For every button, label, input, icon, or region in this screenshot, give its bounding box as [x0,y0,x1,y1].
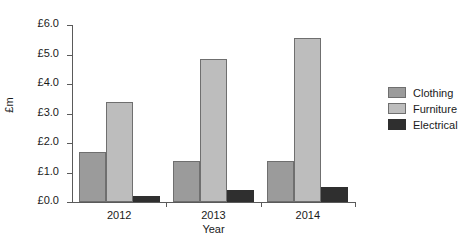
legend-swatch-icon [388,87,406,98]
x-tick [261,202,262,207]
legend-item: Clothing [388,86,458,99]
legend-item: Electrical [388,118,458,131]
x-axis-title: Year [72,223,355,235]
y-tick: £5.0 [67,55,72,56]
y-tick-label: £6.0 [38,17,59,29]
plot-area: £0.0£1.0£2.0£3.0£4.0£5.0£6.0 20122013201… [72,25,355,202]
legend-label: Clothing [413,87,453,99]
bar-clothing-2012 [79,152,106,202]
x-tick [355,202,356,207]
bar-chart: £m £0.0£1.0£2.0£3.0£4.0£5.0£6.0 20122013… [0,0,469,241]
x-tick [166,202,167,207]
y-tick-label: £1.0 [38,165,59,177]
y-tick: £4.0 [67,84,72,85]
chart-legend: ClothingFurnitureElectrical [388,86,458,131]
bar-clothing-2013 [173,161,200,202]
y-axis-title: £m [3,83,15,127]
bar-furniture-2014 [294,38,321,202]
y-tick-label: £3.0 [38,106,59,118]
legend-swatch-icon [388,103,406,114]
y-tick: £6.0 [67,25,72,26]
y-tick: £0.0 [67,202,72,203]
bar-electrical-2013 [227,190,254,202]
bar-furniture-2012 [106,102,133,202]
y-tick-label: £4.0 [38,76,59,88]
y-tick-label: £2.0 [38,135,59,147]
bar-electrical-2014 [321,187,348,202]
y-tick-label: £0.0 [38,194,59,206]
bar-clothing-2014 [267,161,294,202]
y-tick-label: £5.0 [38,47,59,59]
bar-electrical-2012 [133,196,160,202]
y-tick: £3.0 [67,114,72,115]
x-axis-line [72,202,356,203]
x-category-label: 2013 [166,209,260,221]
x-category-label: 2014 [261,209,355,221]
y-axis-line [72,25,73,203]
y-tick: £2.0 [67,143,72,144]
legend-swatch-icon [388,119,406,130]
y-tick: £1.0 [67,173,72,174]
legend-label: Furniture [413,103,457,115]
legend-item: Furniture [388,102,458,115]
bar-furniture-2013 [200,59,227,202]
x-category-label: 2012 [72,209,166,221]
legend-label: Electrical [413,119,458,131]
